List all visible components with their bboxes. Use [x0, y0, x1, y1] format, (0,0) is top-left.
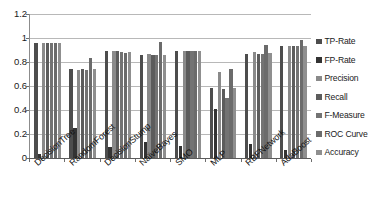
x-axis-label-cell: RandomForest	[64, 159, 99, 223]
legend-item[interactable]: F-Measure	[316, 106, 363, 125]
legend-label: F-Measure	[325, 110, 365, 120]
bar	[218, 72, 221, 158]
legend-swatch-icon	[316, 131, 322, 137]
legend-item[interactable]: TP-Rate	[316, 32, 363, 51]
bar	[175, 51, 178, 158]
bar	[229, 69, 232, 158]
x-axis-label-cell: MLP	[205, 159, 240, 223]
bar	[69, 69, 72, 158]
y-axis-tick	[26, 38, 29, 39]
legend-swatch-icon	[316, 57, 322, 63]
bar	[116, 51, 119, 158]
x-axis-tick	[311, 159, 312, 162]
legend-label: Accuracy	[325, 147, 359, 157]
x-axis-label-cell: DecisionStump	[100, 159, 135, 223]
y-axis-tick	[26, 110, 29, 111]
bar	[46, 43, 49, 158]
bar	[257, 54, 260, 158]
bar	[245, 54, 248, 158]
x-axis-label-cell: RBFNetwork	[241, 159, 276, 223]
y-axis-tick	[26, 134, 29, 135]
legend-item[interactable]: FP-Rate	[316, 51, 363, 70]
legend-swatch-icon	[316, 39, 322, 45]
bar	[280, 46, 283, 158]
bar	[198, 51, 201, 158]
x-axis-label-cell: DecisionTree	[29, 159, 64, 223]
bar	[77, 70, 80, 158]
bar	[253, 52, 256, 158]
legend-swatch-icon	[316, 113, 322, 119]
bar	[140, 55, 143, 158]
chart-legend: TP-RateFP-RatePrecisionRecallF-MeasureRO…	[316, 32, 363, 162]
legend-item[interactable]: Precision	[316, 69, 363, 88]
legend-item[interactable]: ROC Curve	[316, 125, 363, 144]
legend-item[interactable]: Accuracy	[316, 143, 363, 162]
bar	[147, 54, 150, 158]
bar	[233, 88, 236, 158]
legend-label: ROC Curve	[325, 129, 368, 139]
legend-swatch-icon	[316, 150, 322, 156]
legend-label: TP-Rate	[325, 36, 356, 46]
legend-label: FP-Rate	[325, 55, 356, 65]
legend-swatch-icon	[316, 76, 322, 82]
legend-item[interactable]: Recall	[316, 88, 363, 107]
legend-swatch-icon	[316, 94, 322, 100]
bar	[190, 51, 193, 158]
legend-label: Recall	[325, 92, 348, 102]
bar	[214, 109, 217, 158]
bar	[210, 88, 213, 158]
y-axis-tick	[26, 62, 29, 63]
bar	[288, 46, 291, 158]
x-axis: DecisionTreeRandomForestDecisionStumpNaï…	[29, 159, 311, 223]
x-axis-label-cell: SMO	[170, 159, 205, 223]
bar-group	[206, 14, 241, 158]
y-axis-tick	[26, 86, 29, 87]
bar	[42, 43, 45, 158]
bar	[34, 43, 37, 158]
bar	[151, 55, 154, 158]
legend-label: Precision	[325, 73, 359, 83]
bar	[194, 51, 197, 158]
bar	[112, 51, 115, 158]
bar	[186, 51, 189, 158]
x-axis-label-cell: AdaBoost	[276, 159, 311, 223]
x-axis-label-cell: NaïveBayes	[135, 159, 170, 223]
bar	[105, 51, 108, 158]
y-axis: 00.20.40.60.811.2	[0, 0, 27, 223]
y-axis-tick	[26, 14, 29, 15]
bar	[225, 98, 228, 158]
bar	[292, 46, 295, 158]
bar	[183, 51, 186, 158]
